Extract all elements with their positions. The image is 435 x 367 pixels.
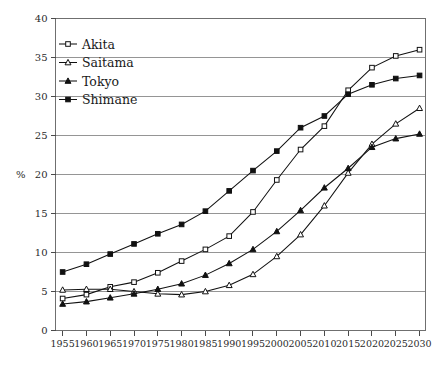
data-point-marker [274,149,279,154]
x-tick-label: 1985 [193,338,217,349]
data-point-marker [60,270,65,275]
data-point-marker [322,114,327,119]
data-point-marker [250,246,256,251]
data-point-marker [132,242,137,247]
y-tick-label: 0 [41,325,47,336]
x-tick-label: 1960 [74,338,98,349]
data-point-marker [298,125,303,130]
data-point-marker [226,260,232,265]
y-axis-unit: % [16,169,26,180]
y-tick-label: 35 [35,52,48,63]
data-point-marker [417,131,423,136]
legend-label: Akita [81,37,116,52]
data-point-marker [84,262,89,267]
legend-item-akita: Akita [59,37,116,52]
series-line [63,108,420,294]
x-tick-label: 2015 [336,338,360,349]
y-tick-label: 30 [35,91,48,102]
x-tick-label: 2030 [407,338,431,349]
data-point-marker [274,178,279,183]
x-tick-label: 2025 [384,338,408,349]
data-point-marker [84,292,89,297]
data-point-marker [250,271,256,276]
series-line [63,134,420,304]
y-tick-label: 15 [35,208,48,219]
legend-label: Shimane [82,92,137,107]
data-point-marker [203,247,208,252]
y-tick-label: 20 [35,169,48,180]
x-tick-label: 2010 [312,338,336,349]
legend-item-tokyo: Tokyo [59,74,119,89]
series-saitama [60,105,423,297]
legend-marker-open-square [66,42,71,47]
data-point-marker [202,272,208,277]
legend-item-shimane: Shimane [59,92,137,107]
y-tick-label: 5 [41,286,47,297]
data-point-marker [346,92,351,97]
data-point-marker [179,259,184,264]
x-tick-label: 1965 [98,338,122,349]
data-point-marker [251,168,256,173]
data-point-marker [370,83,375,88]
y-axis-unit-label: % [16,169,26,180]
data-point-marker [393,76,398,81]
x-tick-label: 1955 [51,338,75,349]
line-chart: 0510152025303540 19551960196519701975198… [0,0,435,367]
x-tick-label: 2020 [360,338,384,349]
data-point-marker [227,189,232,194]
data-point-marker [251,210,256,215]
x-tick-label: 1995 [241,338,265,349]
data-point-marker [156,270,161,275]
data-point-marker [417,47,422,52]
data-point-marker [370,65,375,70]
legend-label: Saitama [82,55,134,70]
x-tick-label: 1980 [170,338,194,349]
y-tick-label: 10 [35,247,48,258]
data-point-marker [132,280,137,285]
data-point-marker [393,121,399,126]
data-point-marker [156,231,161,236]
x-tick-label: 2005 [288,338,312,349]
x-tick-label: 1990 [217,338,241,349]
data-point-marker [417,105,423,110]
y-tick-label: 25 [35,130,48,141]
data-point-marker [417,73,422,78]
y-tick-label: 40 [35,13,48,24]
x-tick-label: 1970 [122,338,146,349]
data-point-marker [179,222,184,227]
data-point-marker [393,54,398,59]
data-point-marker [298,147,303,152]
x-axis-ticks: 1955196019651970197519801985199019952000… [51,331,432,350]
data-point-marker [203,209,208,214]
data-point-marker [322,124,327,129]
data-point-marker [108,252,113,257]
x-tick-label: 2000 [265,338,289,349]
chart-canvas: 0510152025303540 19551960196519701975198… [0,0,435,367]
legend-marker-filled-square [66,97,71,102]
y-axis-ticks: 0510152025303540 [35,13,56,336]
legend-label: Tokyo [82,74,119,89]
x-tick-label: 1975 [146,338,170,349]
data-point-marker [227,234,232,239]
